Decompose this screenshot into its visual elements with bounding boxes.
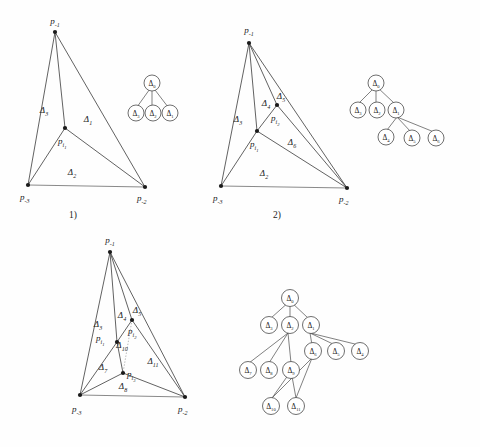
label-delta-4: Δ4 [261,98,270,110]
vertex-p-minus-2 [183,395,187,399]
label-p-minus-1: p-1 [104,235,115,247]
label-delta-11: Δ11 [147,356,159,368]
vertex-p-i-1 [63,126,67,130]
label-delta-3: Δ3 [93,319,102,331]
label-delta-10: Δ10 [115,340,127,352]
edge-p1-p2 [249,43,347,188]
edge-p3-p2 [28,185,145,187]
vertex-p-minus-1 [53,30,57,34]
edge-p1-pi1 [110,252,117,342]
label-delta-8: Δ8 [118,381,127,393]
tree-edge-d6-d11 [296,358,312,398]
edge-p1-pi2 [249,43,277,105]
label-delta-4: Δ4 [117,310,126,322]
label-delta-2: Δ2 [67,167,76,179]
panel-2-tree: Δ0 Δ3 Δ2 Δ1 Δ4 Δ5 Δ6 [350,75,444,146]
tree-edge-d2-d9 [288,333,291,363]
label-delta-2: Δ2 [259,168,268,180]
vertex-p-minus-3 [219,184,223,188]
label-p-minus-2: p-2 [136,193,147,205]
label-p-minus-2: p-2 [177,404,188,416]
label-p-i-1: pi1 [249,139,258,153]
edge-p3-p2 [80,395,185,397]
label-delta-7: Δ7 [98,362,108,374]
label-p-minus-1: p-1 [243,25,254,37]
vertex-p-i-2 [275,103,279,107]
edge-p3-p2 [221,186,347,188]
tree-edge-d1-d6 [397,117,434,132]
vertex-p-i-3 [121,371,125,375]
tree-edge-d2-d8 [269,333,288,363]
figure-root: p-1 p-3 p-2 pi1 Δ3 Δ1 Δ2 [0,0,480,447]
edge-pi3-p3 [80,373,123,395]
label-p-i-1: pi1 [57,136,66,150]
edge-pi1-p2 [65,128,145,187]
vertex-p-minus-3 [78,393,82,397]
tree-edge-d1-d4 [387,117,397,130]
tree-edge-d2-d7 [249,333,288,363]
vertex-p-minus-2 [143,185,147,189]
tree-edge-d1-d5 [397,117,411,132]
edge-p1-p2 [110,252,185,397]
label-p-minus-3: p-3 [19,192,30,204]
vertex-p-minus-1 [247,41,251,45]
label-p-i-2: pi2 [127,326,137,340]
label-p-i-3: pi3 [126,369,136,383]
edge-pi1-p2 [257,131,347,188]
panel-1-triangulation: p-1 p-3 p-2 pi1 Δ3 Δ1 Δ2 [19,16,147,205]
label-p-minus-2: p-2 [338,194,349,206]
panel-3-tree: Δ0 Δ3 Δ2 Δ1 Δ7 Δ8 Δ9 [240,290,369,415]
panel-3-triangulation: p-1 p-3 p-2 pi1 pi2 pi3 Δ3 Δ4 [71,235,188,416]
vertex-p-i-2 [130,318,134,322]
label-p-minus-3: p-3 [212,193,223,205]
vertex-p-i-1 [255,129,259,133]
vertex-p-minus-3 [26,183,30,187]
label-delta-6: Δ6 [287,137,296,149]
vertex-p-minus-2 [345,186,349,190]
label-delta-3: Δ3 [233,114,242,126]
edge-p1-pi1 [249,43,257,131]
vertex-p-minus-1 [108,250,112,254]
label-p-minus-1: p-1 [49,16,60,28]
edge-pi2-p2 [132,320,185,397]
panel-2-caption: 2) [273,210,281,221]
panel-1-caption: 1) [69,210,77,221]
label-p-i-1: pi1 [95,333,104,347]
label-delta-1: Δ1 [83,114,92,126]
label-delta-5: Δ5 [132,305,141,317]
label-p-i-2: pi2 [270,113,280,127]
panel-1-tree: Δ0 Δ3 Δ2 Δ1 [128,75,178,121]
label-delta-5: Δ5 [276,91,285,103]
panel-2-triangulation: p-1 p-3 p-2 pi1 pi2 Δ3 Δ4 Δ5 [212,25,349,206]
label-delta-3: Δ3 [39,105,48,117]
label-p-minus-3: p-3 [71,404,82,416]
